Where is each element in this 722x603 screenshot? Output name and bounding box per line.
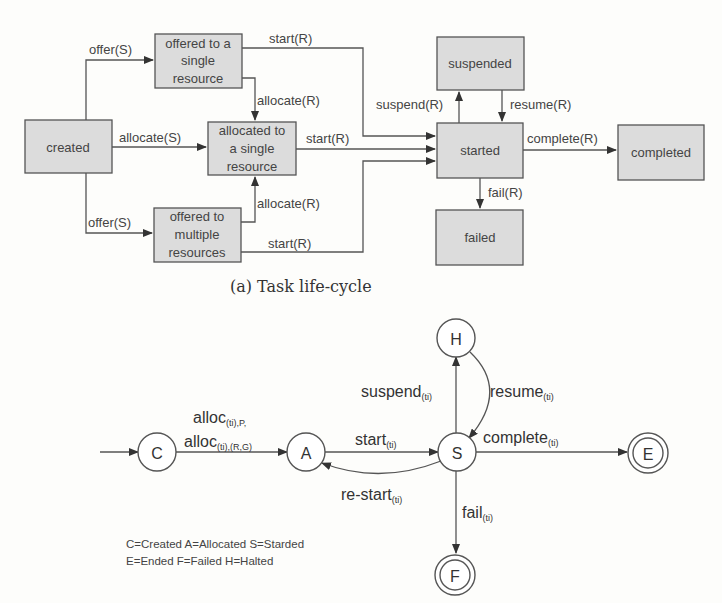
svg-text:resource: resource	[173, 71, 224, 86]
caption: (a) Task life-cycle	[230, 277, 372, 296]
svg-text:offered to: offered to	[170, 209, 225, 224]
label-complete: complete(ti)	[483, 429, 558, 448]
label-allocate-r-single: allocate(R)	[257, 93, 320, 108]
label-allocate-r-multiple: allocate(R)	[257, 196, 320, 211]
label-start-offered-single: start(R)	[269, 31, 312, 46]
svg-text:suspended: suspended	[448, 56, 512, 71]
svg-text:resource: resource	[227, 159, 278, 174]
svg-text:A: A	[301, 445, 312, 462]
svg-text:failed: failed	[464, 230, 495, 245]
label-suspend: suspend(R)	[376, 97, 443, 112]
label-suspend: suspend(ti)	[361, 383, 432, 402]
top-diagram: created offered to a single resource all…	[25, 31, 704, 296]
svg-text:completed: completed	[631, 145, 691, 160]
svg-text:allocated to: allocated to	[219, 123, 286, 138]
state-s: S	[438, 433, 476, 471]
label-restart: re-start(ti)	[341, 486, 402, 505]
edge-allocate-r-single	[242, 78, 255, 120]
label-fail: fail(R)	[488, 185, 523, 200]
state-a: A	[287, 433, 325, 471]
state-e: E	[628, 433, 668, 473]
state-failed: failed	[436, 210, 523, 265]
label-complete: complete(R)	[527, 131, 598, 146]
state-offered-multiple: offered to multiple resources	[154, 208, 241, 262]
label-resume: resume(ti)	[490, 383, 554, 402]
svg-text:single: single	[181, 53, 215, 68]
edge-resume	[469, 352, 490, 438]
state-f: F	[435, 555, 475, 595]
svg-text:a single: a single	[230, 141, 275, 156]
label-offer-single: offer(S)	[89, 42, 132, 57]
svg-text:C: C	[151, 445, 163, 462]
svg-text:resources: resources	[168, 245, 226, 260]
label-start: start(ti)	[355, 431, 397, 450]
label-fail: fail(ti)	[462, 504, 493, 523]
label-start-offered-multiple: start(R)	[268, 236, 311, 251]
state-h: H	[437, 319, 475, 357]
edge-allocate-r-multiple	[241, 177, 255, 222]
label-resume: resume(R)	[510, 97, 571, 112]
label-alloc-p: alloc(ti),P,	[193, 409, 246, 428]
state-completed: completed	[618, 125, 704, 180]
task-lifecycle-figure: created offered to a single resource all…	[0, 0, 722, 603]
svg-text:created: created	[46, 140, 89, 155]
bottom-diagram: C A S H E F alloc(ti),P, alloc(ti),(R,G)…	[100, 319, 668, 595]
state-suspended: suspended	[437, 37, 524, 90]
legend-line-1: C=Created A=Allocated S=Starded	[126, 538, 304, 550]
state-allocated-single: allocated to a single resource	[208, 122, 296, 175]
svg-text:F: F	[450, 568, 460, 585]
edge-offer-single	[86, 60, 153, 120]
legend-line-2: E=Ended F=Failed H=Halted	[126, 555, 273, 567]
state-c: C	[138, 433, 176, 471]
svg-text:offered to a: offered to a	[165, 36, 231, 51]
state-offered-single: offered to a single resource	[155, 34, 242, 88]
label-allocate-s: allocate(S)	[119, 130, 181, 145]
state-created: created	[25, 120, 112, 173]
label-start-allocated: start(R)	[306, 131, 349, 146]
svg-text:multiple: multiple	[175, 227, 220, 242]
state-started: started	[437, 123, 523, 178]
edge-restart	[322, 461, 441, 474]
svg-text:E: E	[643, 446, 654, 463]
svg-text:H: H	[450, 331, 462, 348]
svg-text:S: S	[452, 445, 463, 462]
label-alloc-rg: alloc(ti),(R,G)	[184, 433, 252, 452]
label-offer-multiple: offer(S)	[88, 215, 131, 230]
svg-text:started: started	[460, 143, 500, 158]
